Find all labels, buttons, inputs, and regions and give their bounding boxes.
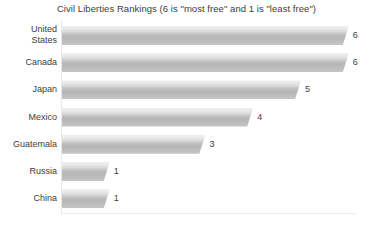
civil-liberties-bar-chart: Civil Liberties Rankings (6 is "most fre… bbox=[0, 0, 373, 227]
bar-row: 5 bbox=[62, 80, 301, 99]
category-label: China bbox=[0, 193, 57, 204]
category-label: Guatemala bbox=[0, 139, 57, 150]
bar bbox=[62, 53, 349, 72]
bar-value-label: 1 bbox=[114, 166, 119, 176]
bar-value-label: 6 bbox=[353, 57, 358, 67]
bar bbox=[62, 162, 110, 181]
bar-value-label: 5 bbox=[305, 84, 310, 94]
bar-value-label: 3 bbox=[209, 139, 214, 149]
bar bbox=[62, 26, 349, 45]
category-label: Japan bbox=[0, 84, 57, 95]
bar-row: 4 bbox=[62, 108, 253, 127]
bar-row: 6 bbox=[62, 26, 349, 45]
bar-row: 6 bbox=[62, 53, 349, 72]
category-label: Canada bbox=[0, 57, 57, 68]
category-label: United States bbox=[0, 24, 57, 45]
category-label: Mexico bbox=[0, 112, 57, 123]
bar-value-label: 6 bbox=[353, 30, 358, 40]
bar bbox=[62, 135, 205, 154]
bar bbox=[62, 80, 301, 99]
category-label: Russia bbox=[0, 166, 57, 177]
bar bbox=[62, 189, 110, 208]
bar-row: 1 bbox=[62, 189, 110, 208]
bar-value-label: 1 bbox=[114, 193, 119, 203]
bar bbox=[62, 108, 253, 127]
bar-row: 1 bbox=[62, 162, 110, 181]
chart-title: Civil Liberties Rankings (6 is "most fre… bbox=[0, 3, 373, 14]
bar-row: 3 bbox=[62, 135, 205, 154]
bar-value-label: 4 bbox=[257, 112, 262, 122]
